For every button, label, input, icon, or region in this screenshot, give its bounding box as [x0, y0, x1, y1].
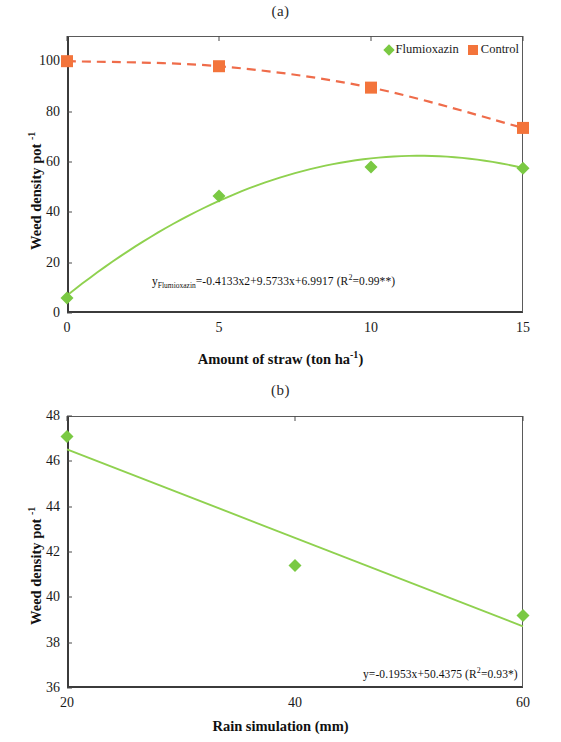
data-point-marker: [61, 55, 73, 67]
chart-a-equation-tail: =0.99**): [352, 275, 395, 287]
x-tick-label: 20: [60, 695, 74, 711]
chart-b-equation-annotation: y=-0.1953x+50.4375 (R2=0.93*): [363, 666, 518, 680]
x-tick-label: 40: [288, 695, 302, 711]
legend-label-control: Control: [481, 42, 519, 57]
chart-b-series-layer: [67, 416, 523, 688]
series-trendline-control: [67, 61, 523, 128]
chart-a-y-axis-title-text: Weed density pot: [28, 140, 44, 250]
legend-label-flumioxazin: Flumioxazin: [396, 42, 459, 57]
y-tick-label: 46: [46, 453, 60, 469]
y-tick-label: 20: [46, 255, 60, 271]
diamond-marker-icon: [383, 44, 394, 55]
y-tick-label: 40: [46, 589, 60, 605]
chart-a-equation-annotation: yFlumioxazin=-0.4133x2+9.5733x+6.9917 (R…: [152, 273, 395, 290]
y-tick-label: 0: [53, 305, 60, 321]
y-tick-label: 36: [46, 680, 60, 696]
y-tick-label: 80: [46, 104, 60, 120]
chart-a-y-axis-title: Weed density pot -1: [26, 132, 45, 250]
chart-a-series-layer: [67, 36, 523, 313]
y-tick-label: 40: [46, 204, 60, 220]
data-point-marker: [213, 60, 225, 72]
chart-panel-a: (a) Weed density pot -1 Amount of straw …: [0, 0, 561, 380]
x-tick-label: 5: [216, 320, 223, 336]
chart-a-plot-area: 020406080100 051015 Flumioxazin Control: [67, 36, 523, 313]
chart-b-plot-area: 36384042444648 204060 y=-0.1953x+50.4375…: [67, 416, 523, 688]
data-point-marker: [517, 122, 529, 134]
chart-a-equation-subscript: Flumioxazin: [158, 281, 196, 290]
chart-b-y-axis-title-text: Weed density pot: [28, 515, 44, 625]
y-tick-label: 60: [46, 154, 60, 170]
panel-a-label: (a): [0, 3, 561, 20]
y-tick-label: 42: [46, 544, 60, 560]
data-point-marker: [365, 160, 378, 173]
chart-a-legend: Flumioxazin Control: [385, 42, 519, 57]
chart-a-x-axis-title-text: Amount of straw (ton ha: [198, 351, 350, 367]
chart-b-y-axis-title: Weed density pot -1: [26, 507, 45, 625]
data-point-marker: [517, 162, 530, 175]
panel-b-label: (b): [0, 382, 561, 399]
chart-b-equation-body: y=-0.1953x+50.4375 (R: [363, 668, 477, 680]
legend-item-flumioxazin: Flumioxazin: [385, 42, 459, 57]
y-tick-label: 44: [46, 499, 60, 515]
x-tick-label: 60: [516, 695, 530, 711]
x-tick-label: 0: [64, 320, 71, 336]
chart-b-equation-tail: =0.93*): [481, 668, 518, 680]
y-tick-label: 100: [39, 53, 60, 69]
data-point-marker: [365, 82, 377, 94]
y-tick-label: 38: [46, 635, 60, 651]
data-point-marker: [61, 291, 74, 304]
chart-b-x-axis-title: Rain simulation (mm): [0, 718, 561, 735]
chart-a-y-axis-title-superscript: -1: [26, 132, 37, 140]
data-point-marker: [213, 189, 226, 202]
chart-a-equation-body: =-0.4133x2+9.5733x+6.9917 (R: [196, 275, 349, 287]
chart-b-y-axis-title-superscript: -1: [26, 507, 37, 515]
legend-item-control: Control: [468, 42, 519, 57]
data-point-marker: [289, 559, 302, 572]
chart-a-x-axis-title: Amount of straw (ton ha-1): [0, 349, 561, 368]
square-marker-icon: [468, 45, 478, 55]
x-tick-label: 15: [516, 320, 530, 336]
series-trendline-flumioxazin: [67, 449, 523, 626]
x-tick-label: 10: [364, 320, 378, 336]
chart-a-x-axis-title-tail: ): [358, 351, 363, 367]
y-tick-label: 48: [46, 408, 60, 424]
